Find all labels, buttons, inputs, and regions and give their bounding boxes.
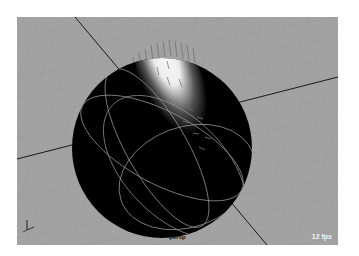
axis-gizmo-icon bbox=[22, 217, 36, 233]
fps-counter: 12 fps bbox=[312, 233, 332, 240]
scene-canvas[interactable] bbox=[17, 17, 338, 245]
camera-label: persp bbox=[17, 234, 338, 240]
3d-viewport[interactable]: persp 12 fps bbox=[17, 17, 338, 245]
